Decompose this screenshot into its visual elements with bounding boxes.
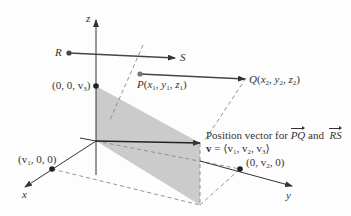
vector-RS: [69, 53, 175, 58]
point-y-intercept: [237, 166, 243, 172]
label-S: S: [180, 52, 186, 63]
shaded-plane: [96, 86, 200, 205]
annotation-line-1: Position vector for PQ and RS: [206, 130, 342, 141]
annotation-line-2: v = ⟨v1, v2, v3⟩: [206, 143, 270, 156]
point-P: [137, 71, 142, 76]
label-z-intercept: (0, 0, v3): [52, 80, 90, 93]
point-R: [66, 50, 71, 55]
vector-diagram: z x y R S P(x1, y1, z1) Q(x2, y2, z2) (0…: [0, 0, 351, 216]
label-Q: Q(x2, y2, z2): [249, 74, 300, 87]
y-axis-label: y: [286, 190, 291, 201]
label-P: P(x1, y1, z1): [137, 79, 187, 92]
x-axis-label: x: [22, 189, 27, 200]
label-x-intercept: (v1, 0, 0): [18, 154, 56, 167]
point-x-intercept: [49, 166, 55, 172]
diagram-graphics: [0, 0, 351, 216]
label-y-intercept: (0, v2, 0): [246, 157, 284, 170]
z-axis-label: z: [86, 13, 90, 24]
label-R: R: [55, 47, 62, 58]
point-z-intercept: [93, 83, 99, 89]
